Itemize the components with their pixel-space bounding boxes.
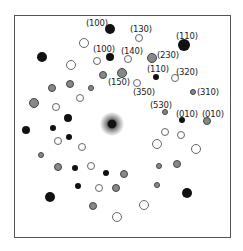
diffraction-spot-grey: [190, 89, 196, 95]
diffraction-spot-open: [191, 144, 201, 154]
diffraction-spot-grey: [147, 53, 157, 63]
miller-index-label: (140): [121, 47, 143, 56]
diffraction-spot-grey: [173, 160, 181, 168]
diffraction-spot-grey: [89, 202, 97, 210]
miller-index-label: (150): [108, 78, 130, 87]
miller-index-label: (100): [93, 45, 115, 54]
diffraction-spot-open: [93, 57, 101, 65]
central-beam-spot: [100, 112, 124, 136]
diffraction-spot-grey: [66, 80, 74, 88]
diffraction-spot-open: [76, 94, 84, 102]
miller-index-label: (010): [202, 110, 224, 119]
diffraction-spot-filled: [66, 134, 72, 140]
diffraction-spot-grey: [99, 71, 107, 79]
miller-index-label: (310): [197, 88, 219, 97]
diffraction-spot-open: [161, 128, 169, 136]
diffraction-spot-open: [139, 200, 149, 210]
diffraction-spot-filled: [103, 170, 109, 176]
diffraction-spot-filled: [182, 188, 192, 198]
diffraction-spot-open: [87, 162, 95, 170]
diffraction-spot-filled: [22, 126, 30, 134]
miller-index-label: (350): [133, 88, 155, 97]
diffraction-spot-filled: [75, 183, 81, 189]
diffraction-spot-grey: [38, 152, 44, 158]
diffraction-spot-grey: [154, 182, 160, 188]
diffraction-spot-open: [135, 34, 143, 42]
miller-index-label: (230): [157, 51, 179, 60]
diffraction-spot-open: [52, 103, 60, 111]
diffraction-spot-open: [152, 139, 162, 149]
diffraction-spot-filled: [64, 114, 72, 122]
diffraction-spot-open: [112, 212, 122, 222]
diffraction-spot-grey: [112, 184, 120, 192]
miller-index-label: (010): [176, 110, 198, 119]
diffraction-spot-grey: [29, 98, 39, 108]
miller-index-label: (100): [86, 19, 108, 28]
diffraction-spot-grey: [48, 84, 56, 92]
diffraction-spot-open: [66, 60, 76, 70]
diffraction-spot-grey: [88, 85, 94, 91]
diffraction-spot-open: [79, 38, 89, 48]
miller-index-label: (110): [147, 65, 169, 74]
diffraction-spot-open: [133, 79, 141, 87]
diffraction-spot-filled: [45, 192, 55, 202]
diffraction-spot-open: [78, 143, 86, 151]
diffraction-spot-open: [95, 184, 103, 192]
diffraction-spot-grey: [156, 163, 162, 169]
diffraction-spot-filled: [50, 125, 56, 131]
miller-index-label: (130): [130, 25, 152, 34]
diffraction-spot-open: [177, 131, 185, 139]
diffraction-spot-grey: [54, 163, 62, 171]
miller-index-label: (530): [150, 101, 172, 110]
diffraction-spot-grey: [120, 170, 128, 178]
diffraction-spot-filled: [72, 165, 78, 171]
diffraction-spot-filled: [37, 52, 47, 62]
diffraction-spot-open: [54, 137, 62, 145]
diffraction-spot-filled: [106, 53, 114, 61]
diffraction-spot-open: [124, 55, 132, 63]
diffraction-spot-filled: [153, 74, 159, 80]
miller-index-label: (110): [176, 32, 198, 41]
miller-index-label: (320): [176, 68, 198, 77]
